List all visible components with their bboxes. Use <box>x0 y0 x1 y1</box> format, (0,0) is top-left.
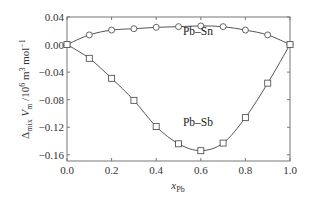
curves <box>67 26 290 151</box>
x-tick-label: 0.2 <box>105 164 119 176</box>
x-axis-label: xPb <box>170 179 184 194</box>
y-tick-label: 0.00 <box>45 39 65 51</box>
tick-labels: 0.00.20.40.60.81.00.040.00−0.04−0.08−0.1… <box>39 11 298 176</box>
point-pb-sn <box>86 32 92 38</box>
point-pb-sb <box>198 148 204 154</box>
chart: 0.00.20.40.60.81.00.040.00−0.04−0.08−0.1… <box>0 0 313 202</box>
ticks <box>67 17 290 161</box>
x-tick-label: 0.8 <box>239 164 253 176</box>
point-pb-sn <box>242 27 248 33</box>
point-pb-sb <box>109 75 115 81</box>
point-pb-sn <box>153 24 159 30</box>
y-tick-label: 0.04 <box>45 11 65 23</box>
point-pb-sb <box>131 97 137 103</box>
y-tick-label: −0.12 <box>39 121 64 133</box>
x-tick-label: 0.0 <box>60 164 74 176</box>
series-label-pb-sb: Pb–Sb <box>183 116 213 128</box>
point-pb-sb <box>220 140 226 146</box>
point-pb-sn <box>220 24 226 30</box>
point-pb-sn <box>176 24 182 30</box>
point-pb-sb <box>242 115 248 121</box>
x-tick-label: 1.0 <box>283 164 297 176</box>
point-pb-sb <box>287 42 293 48</box>
series-label-pb-sn: Pb–Sn <box>183 25 213 37</box>
point-pb-sn <box>131 26 137 32</box>
point-pb-sb <box>265 80 271 86</box>
y-tick-label: −0.16 <box>39 149 65 161</box>
y-tick-label: −0.08 <box>39 94 65 106</box>
point-pb-sn <box>109 27 115 33</box>
point-pb-sb <box>86 55 92 61</box>
y-axis-label: Δmix Vm /106 m3 mol−1 <box>18 39 34 139</box>
y-tick-label: −0.04 <box>39 66 65 78</box>
point-pb-sb <box>153 124 159 130</box>
point-pb-sn <box>265 32 271 38</box>
curve-pb-sb <box>67 45 290 151</box>
series-labels: Pb–SnPb–Sb <box>183 25 213 128</box>
x-tick-label: 0.4 <box>149 164 163 176</box>
point-pb-sb <box>176 141 182 147</box>
point-pb-sb <box>64 42 70 48</box>
plot-frame <box>67 17 290 161</box>
markers <box>64 23 293 154</box>
x-tick-label: 0.6 <box>194 164 208 176</box>
